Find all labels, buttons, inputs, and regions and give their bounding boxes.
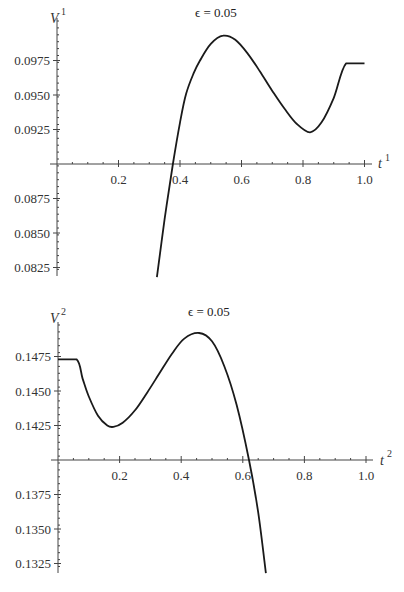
y-tick-label: 0.1375 — [15, 487, 51, 502]
y-tick-label: 0.0950 — [14, 88, 50, 103]
y-axis-label-sup: 2 — [61, 306, 66, 317]
x-tick-label: 0.6 — [235, 468, 252, 483]
y-tick-label: 0.0875 — [14, 191, 50, 206]
x-tick-label: 1.0 — [358, 468, 374, 483]
y-tick-label: 0.1450 — [15, 384, 51, 399]
minor-ticks — [58, 325, 351, 567]
y-tick-label: 0.0825 — [14, 260, 50, 275]
x-tick-label: 0.4 — [173, 468, 190, 483]
y-tick-label: 0.0850 — [14, 226, 50, 241]
x-tick-label: 0.8 — [295, 172, 311, 187]
chart-v2: ϵ = 0.05 V 2 t 2 0.20.40.60.81.0 0.14750… — [15, 304, 392, 573]
x-axis-label-sup: 2 — [387, 448, 392, 459]
x-tick-label: 0.2 — [111, 468, 127, 483]
x-axis-label: t — [378, 156, 383, 171]
series-line-v1 — [157, 36, 365, 278]
chart-title: ϵ = 0.05 — [195, 5, 237, 20]
x-tick-label: 1.0 — [356, 172, 372, 187]
y-axis-label-sup: 1 — [61, 6, 66, 17]
y-tick-label: 0.1350 — [15, 522, 51, 537]
x-tick-label: 0.8 — [296, 468, 312, 483]
y-tick-label: 0.1325 — [15, 556, 51, 571]
y-tick-label: 0.1475 — [15, 349, 51, 364]
y-tick-label: 0.1425 — [15, 418, 51, 433]
chart-title: ϵ = 0.05 — [188, 304, 230, 319]
y-tick-label: 0.0975 — [14, 53, 50, 68]
minor-ticks — [57, 21, 349, 269]
x-axis-label-sup: 1 — [385, 152, 390, 163]
y-axis-label: V — [50, 11, 60, 26]
x-tick-label: 0.6 — [233, 172, 250, 187]
chart-v1: ϵ = 0.05 V 1 t 1 0.20.40.60.81.0 0.09750… — [14, 5, 390, 277]
x-tick-label: 0.2 — [110, 172, 126, 187]
y-axis-label: V — [50, 311, 60, 326]
y-tick-label: 0.0925 — [14, 122, 50, 137]
x-axis-label: t — [380, 453, 385, 468]
x-tick-label: 0.4 — [172, 172, 189, 187]
series-line-v2 — [58, 333, 266, 573]
chart-canvas: ϵ = 0.05 V 1 t 1 0.20.40.60.81.0 0.09750… — [0, 0, 404, 592]
